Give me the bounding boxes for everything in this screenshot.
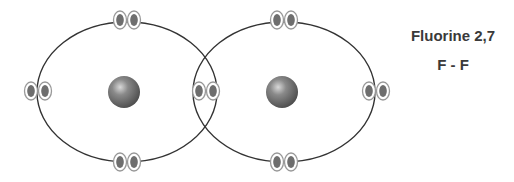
lone-pair-2-bottom (271, 153, 298, 171)
electron (273, 14, 281, 26)
electron (287, 156, 295, 168)
electron (365, 85, 373, 97)
electron (209, 85, 217, 97)
electron (116, 14, 124, 26)
electron (130, 156, 138, 168)
lone-pair-2-right (363, 82, 390, 100)
electron (195, 85, 203, 97)
electron (27, 85, 35, 97)
shared-bonding-pair (193, 82, 220, 100)
nucleus-2 (266, 76, 298, 108)
electron (379, 85, 387, 97)
electron (116, 156, 124, 168)
electron (287, 14, 295, 26)
lone-pair-1-top (114, 11, 141, 29)
electron (273, 156, 281, 168)
molecule-title: Fluorine 2,7 (392, 27, 514, 44)
lone-pair-1-bottom (114, 153, 141, 171)
electron (130, 14, 138, 26)
molecule-formula: F - F (392, 56, 514, 73)
nucleus-1 (108, 76, 140, 108)
electron (41, 85, 49, 97)
lone-pair-2-top (271, 11, 298, 29)
